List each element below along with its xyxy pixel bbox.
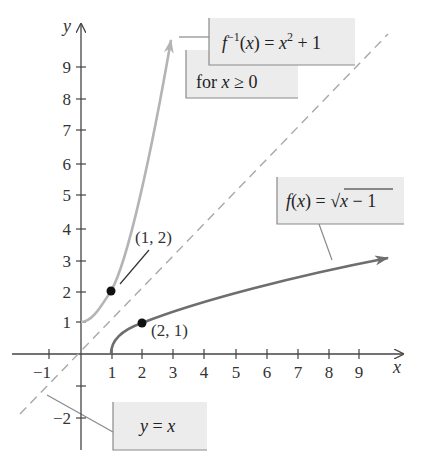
function-callout: f(x) = √x − 1 bbox=[277, 177, 404, 260]
x-tick-5: 5 bbox=[232, 363, 241, 382]
x-tick-6: 6 bbox=[263, 363, 272, 382]
y-tick-labels: 1 2 3 4 5 6 7 8 9 −2 bbox=[53, 58, 72, 428]
y-tick-8: 8 bbox=[63, 90, 72, 109]
x-tick-9: 9 bbox=[355, 363, 364, 382]
x-tick-labels: −1 1 2 3 4 5 6 7 8 9 bbox=[33, 363, 363, 382]
point-2-1-label: (2, 1) bbox=[151, 321, 188, 340]
x-tick-3: 3 bbox=[169, 363, 178, 382]
y-tick-7: 7 bbox=[63, 121, 72, 140]
y-tick-1: 1 bbox=[63, 313, 72, 332]
y-tick-6: 6 bbox=[63, 155, 72, 174]
identity-text: y = x bbox=[138, 416, 175, 436]
inverse-callout: f−1(x) = x2 + 1 for x ≥ 0 bbox=[179, 18, 355, 98]
x-tick-neg1: −1 bbox=[33, 363, 51, 382]
y-tick-4: 4 bbox=[63, 220, 72, 239]
graph-canvas: f−1(x) = x2 + 1 for x ≥ 0 f(x) = √x − 1 … bbox=[0, 0, 421, 473]
point-1-2 bbox=[107, 287, 116, 296]
x-tick-1: 1 bbox=[108, 363, 117, 382]
y-tick-3: 3 bbox=[63, 252, 72, 271]
inverse-curve bbox=[81, 40, 171, 322]
inverse-condition-text: for x ≥ 0 bbox=[196, 72, 257, 92]
x-tick-4: 4 bbox=[200, 363, 209, 382]
y-tick-neg2: −2 bbox=[53, 409, 71, 428]
y-tick-2: 2 bbox=[63, 283, 72, 302]
function-pointer-line bbox=[319, 224, 332, 260]
identity-callout: y = x bbox=[47, 395, 207, 450]
y-tick-9: 9 bbox=[63, 58, 72, 77]
x-tick-2: 2 bbox=[138, 363, 147, 382]
x-axis-label: x bbox=[392, 357, 401, 377]
point-1-2-label: (1, 2) bbox=[135, 228, 172, 247]
point-2-1 bbox=[138, 319, 147, 328]
y-axis-label: y bbox=[61, 16, 71, 36]
y-tick-5: 5 bbox=[63, 186, 72, 205]
x-tick-8: 8 bbox=[325, 363, 334, 382]
function-text: f(x) = √x − 1 bbox=[286, 191, 376, 212]
x-tick-7: 7 bbox=[294, 363, 303, 382]
